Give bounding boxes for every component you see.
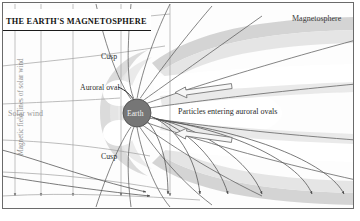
label-magnetosphere: Magnetosphere bbox=[292, 14, 341, 23]
label-auroral-oval: Auroral oval bbox=[80, 83, 120, 92]
label-cusp-top: Cusp bbox=[101, 52, 117, 61]
magnetosphere-diagram: THE EARTH'S MAGNETOSPHERE Magnetosphere … bbox=[0, 0, 360, 221]
label-solar-wind: Solar wind bbox=[8, 109, 43, 118]
label-earth: Earth bbox=[127, 109, 143, 118]
page-title: THE EARTH'S MAGNETOSPHERE bbox=[6, 17, 147, 26]
label-particles-entering-auroral-ovals: Particles entering auroral ovals bbox=[178, 107, 277, 116]
label-magnetic-field-lines-of-solar-wind: Magnetic field lines of solar wind bbox=[17, 42, 25, 172]
label-cusp-bottom: Cusp bbox=[101, 152, 117, 161]
title-box: THE EARTH'S MAGNETOSPHERE bbox=[3, 9, 151, 31]
